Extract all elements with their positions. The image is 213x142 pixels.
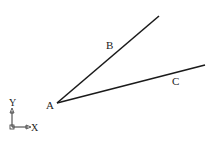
ucs-axis-icon — [10, 108, 31, 129]
diagram-canvas: A B C Y X — [0, 0, 213, 142]
axis-x-label: X — [31, 122, 38, 133]
line-label-c: C — [172, 76, 179, 87]
axis-y-label: Y — [9, 97, 16, 108]
point-label-a: A — [46, 100, 54, 111]
line-label-b: B — [106, 40, 113, 51]
diagram-svg — [0, 0, 213, 142]
